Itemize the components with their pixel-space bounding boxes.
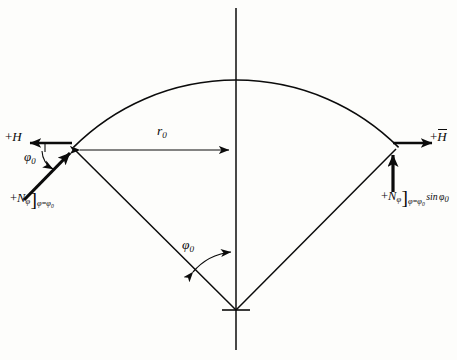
nphi-right-factor-fn: sin: [426, 191, 437, 202]
nphi-right-symbol-subscript: φ: [396, 194, 401, 204]
label-angle-left: φ0: [24, 150, 36, 165]
nphi-left-condition: φ=φ0: [37, 200, 54, 209]
label-meridional-force-left: +Nφ]φ=φ0: [10, 190, 54, 210]
label-thrust-left: +H: [5, 130, 22, 143]
angle-center-subscript: 0: [189, 244, 194, 254]
angle-left-subscript: 0: [31, 156, 35, 166]
phi0-left-angle-arc: [42, 151, 53, 169]
figure-svg: [0, 0, 457, 360]
label-thrust-right: +H: [430, 130, 447, 143]
right-radius-line: [236, 149, 396, 310]
label-meridional-force-right: +Nφ]φ=φ0sinφ0: [381, 188, 449, 208]
nphi-right-sign: +: [381, 189, 388, 203]
thrust-right-symbol: H: [437, 130, 446, 143]
phi0-angle-arc: [193, 252, 231, 272]
nphi-left-sign: +: [10, 191, 17, 205]
radius-subscript: 0: [162, 130, 167, 140]
nphi-right-condition: φ=φ0: [408, 198, 425, 207]
label-angle-center: φ0: [182, 238, 194, 254]
nphi-left-symbol-subscript: φ: [25, 196, 30, 206]
nphi-right-factor-arg-sub: 0: [444, 194, 448, 204]
nphi-left-cond-val-sub: 0: [51, 203, 54, 209]
left-radius-line: [73, 148, 236, 310]
thrust-left-symbol: H: [12, 129, 21, 144]
label-radius: r0: [157, 124, 167, 140]
figure-root: +H +H r0 φ0 φ0 +Nφ]φ=φ0 +Nφ]φ=φ0sinφ0: [0, 0, 457, 360]
nphi-right-cond-val-sub: 0: [422, 201, 425, 207]
